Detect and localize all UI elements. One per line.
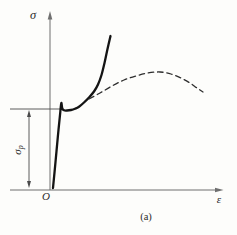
sigma-p-label: σp xyxy=(11,145,25,154)
sigma-axis-arrow-icon xyxy=(48,11,53,20)
epsilon-axis-label: ε xyxy=(217,193,222,205)
curves xyxy=(53,36,203,188)
subfigure-caption: (a) xyxy=(140,211,152,223)
stress-strain-figure: σ ε O σp (a) xyxy=(0,0,237,235)
dimension-arrow-down-icon xyxy=(27,181,31,188)
axes xyxy=(10,11,224,192)
solid-curve xyxy=(53,36,111,188)
dimension-arrow-up-icon xyxy=(27,110,31,117)
sigma-axis-label: σ xyxy=(30,8,37,22)
epsilon-axis-arrow-icon xyxy=(215,188,224,193)
sigma-p-label-sub: p xyxy=(16,145,25,150)
stress-strain-plot: σ ε O σp (a) xyxy=(0,0,237,235)
dashed-curve xyxy=(89,72,203,99)
origin-label: O xyxy=(42,190,50,202)
